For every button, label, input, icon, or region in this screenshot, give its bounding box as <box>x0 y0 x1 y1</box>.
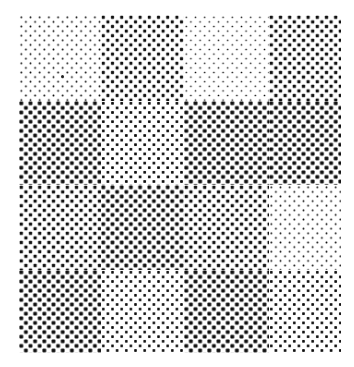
halftone-cell-r2-c1 <box>19 101 101 185</box>
halftone-grid <box>19 15 341 353</box>
halftone-cell-r1-c1 <box>19 15 101 101</box>
dust-speck <box>61 75 64 78</box>
halftone-cell-r3-c3 <box>184 185 269 270</box>
halftone-cell-r4-c2 <box>101 270 184 353</box>
halftone-cell-r3-c2 <box>101 185 184 270</box>
halftone-cell-r2-c3 <box>184 101 269 185</box>
halftone-cell-r1-c3 <box>184 15 269 101</box>
halftone-cell-r3-c1 <box>19 185 101 270</box>
halftone-canvas <box>0 0 354 367</box>
halftone-cell-r2-c4 <box>269 101 341 185</box>
halftone-cell-r3-c4 <box>269 185 341 270</box>
halftone-cell-r1-c4 <box>269 15 341 101</box>
halftone-cell-r4-c4 <box>269 270 341 353</box>
halftone-cell-r2-c2 <box>101 101 184 185</box>
halftone-cell-r4-c1 <box>19 270 101 353</box>
halftone-cell-r1-c2 <box>101 15 184 101</box>
halftone-cell-r4-c3 <box>184 270 269 353</box>
